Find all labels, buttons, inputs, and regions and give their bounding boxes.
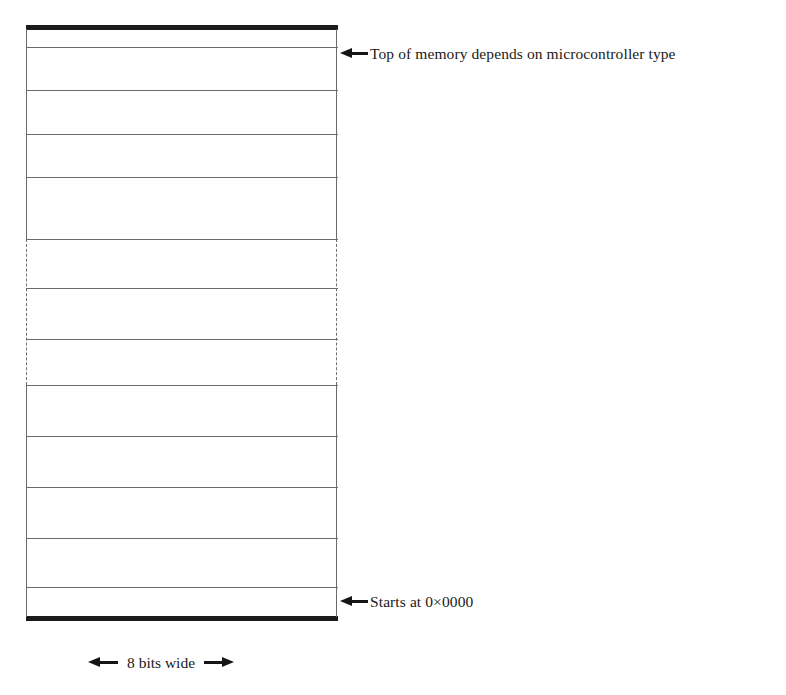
memory-row-divider xyxy=(26,47,338,48)
memory-row-divider xyxy=(26,177,338,178)
left-edge-lower xyxy=(26,383,27,617)
left-edge-upper xyxy=(26,29,27,241)
start-address-label: Starts at 0×0000 xyxy=(370,594,473,610)
memory-map-figure: Top of memory depends on microcontroller… xyxy=(0,0,786,695)
right-edge-lower xyxy=(336,383,337,617)
arrow-left-icon xyxy=(88,657,118,668)
arrow-left-icon xyxy=(340,596,368,607)
memory-row-divider xyxy=(26,339,338,340)
memory-row-divider xyxy=(26,487,338,488)
memory-row-divider xyxy=(26,288,338,289)
width-dimension-text: 8 bits wide xyxy=(127,655,195,671)
left-edge-dashed-break xyxy=(26,239,27,385)
arrow-left-icon xyxy=(340,48,368,59)
arrow-right-icon xyxy=(204,657,234,668)
memory-row-divider xyxy=(26,587,338,588)
memory-row-divider xyxy=(26,436,338,437)
memory-row-divider xyxy=(26,134,338,135)
start-address-callout: Starts at 0×0000 xyxy=(340,594,473,610)
right-edge-dashed-break xyxy=(336,239,337,385)
memory-row-divider xyxy=(26,538,338,539)
memory-row-divider xyxy=(26,385,338,386)
memory-top-cap-bar xyxy=(26,25,338,30)
memory-row-divider xyxy=(26,239,338,240)
memory-bottom-cap-bar xyxy=(26,616,338,621)
right-edge-upper xyxy=(336,29,337,241)
top-of-memory-callout: Top of memory depends on microcontroller… xyxy=(340,46,676,62)
width-dimension-label: 8 bits wide xyxy=(88,655,234,671)
memory-block xyxy=(26,25,338,621)
top-of-memory-label: Top of memory depends on microcontroller… xyxy=(370,46,676,62)
memory-row-divider xyxy=(26,90,338,91)
